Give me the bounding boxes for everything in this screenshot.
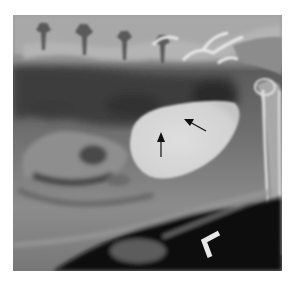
radiograph-image: Lateral abdominal X-ray showing lumbar v…: [13, 15, 282, 271]
radiograph-svg: [13, 15, 282, 271]
